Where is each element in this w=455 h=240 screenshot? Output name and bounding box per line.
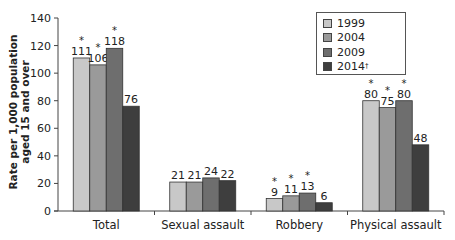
chart-area: 020406080100120140111*106*118*76Total212… [0,0,455,240]
significance-marker: * [402,78,407,89]
bar-value-label: 21 [171,169,185,182]
bar-value-label: 6 [321,190,328,203]
bar-value-label: 48 [414,132,428,145]
x-category-label: Robbery [275,218,323,232]
y-tick-label: 0 [44,205,51,218]
y-axis-label-line2: aged 15 and over [19,12,31,212]
bar [379,108,396,211]
bar-value-label: 13 [301,180,315,193]
significance-marker: * [79,35,84,46]
x-category-label: Physical assault [350,218,442,232]
bar [316,203,333,211]
legend-item-1999: 1999 [323,16,405,31]
bar-value-label: 106 [88,52,109,65]
x-category-label: Total [92,218,120,232]
bar-value-label: 76 [124,93,138,106]
bar [396,101,413,211]
bar [283,196,300,211]
y-axis-label-line1: Rate per 1,000 population [7,12,19,212]
bar [203,178,220,211]
bar [363,101,380,211]
significance-marker: * [385,85,390,96]
bar [412,145,429,211]
bar-value-label: 24 [204,165,218,178]
x-category-label: Sexual assault [161,218,245,232]
significance-marker: * [96,42,101,53]
legend-swatch-2014 [323,62,332,71]
legend-label-2014: 2014 [337,60,365,73]
legend-dagger: † [365,62,369,70]
y-tick-label: 60 [37,122,51,135]
significance-marker: * [272,176,277,187]
legend-swatch-2009 [323,48,332,57]
bar-value-label: 80 [364,88,378,101]
significance-marker: * [305,170,310,181]
bar-value-label: 21 [188,169,202,182]
y-tick-label: 20 [37,177,51,190]
bar-value-label: 22 [221,168,235,181]
legend: 1999 2004 2009 2014† [316,12,406,75]
legend-label-1999: 1999 [337,17,365,30]
y-axis-label: Rate per 1,000 population aged 15 and ov… [7,12,37,212]
bar [123,106,140,211]
bar [73,58,90,211]
y-tick-label: 40 [37,150,51,163]
bar-value-label: 9 [271,186,278,199]
legend-label-2004: 2004 [337,31,365,44]
bar-value-label: 11 [284,183,298,196]
bar [170,182,187,211]
legend-item-2004: 2004 [323,31,405,46]
significance-marker: * [112,25,117,36]
bar [106,48,123,211]
bar [186,182,203,211]
y-tick-label: 80 [37,95,51,108]
legend-item-2014: 2014† [323,60,405,75]
legend-swatch-2004 [323,33,332,42]
bar [90,65,107,211]
legend-swatch-1999 [323,19,332,28]
bar [266,199,283,211]
significance-marker: * [289,173,294,184]
legend-item-2009: 2009 [323,45,405,60]
bar-value-label: 80 [397,88,411,101]
bar-value-label: 118 [104,35,125,48]
significance-marker: * [369,78,374,89]
bar-value-label: 75 [381,95,395,108]
bar [299,193,316,211]
bar [219,181,236,211]
legend-label-2009: 2009 [337,46,365,59]
